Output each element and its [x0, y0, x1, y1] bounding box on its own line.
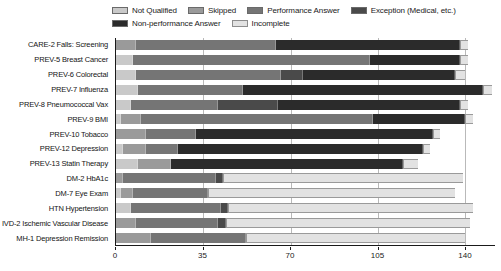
bar-segment-non-performance-answer[interactable] [243, 85, 482, 95]
bar-row [116, 127, 495, 142]
legend-label-non-performance-answer: Non-performance Answer [132, 19, 221, 28]
legend-row-2: Non-performance Answer Incomplete [112, 17, 495, 29]
legend-label-incomplete: Incomplete [252, 19, 290, 28]
bar-segment-incomplete[interactable] [223, 173, 462, 183]
bar-segment-skipped[interactable] [116, 218, 136, 228]
stacked-bar[interactable] [116, 218, 470, 228]
bar-segment-performance-answer[interactable] [136, 40, 276, 50]
bar-segment-exception[interactable] [221, 203, 228, 213]
bar-segment-exception[interactable] [218, 100, 278, 110]
bar-segment-skipped[interactable] [116, 129, 146, 139]
bar-segment-performance-answer[interactable] [138, 85, 243, 95]
legend-item-performance-answer[interactable]: Performance Answer [247, 6, 339, 15]
bar-segment-incomplete[interactable] [460, 40, 467, 50]
bar-segment-performance-answer[interactable] [146, 144, 178, 154]
bar-segment-not-qualified[interactable] [116, 70, 136, 80]
x-tick-label: 35 [198, 251, 207, 260]
bar-segment-incomplete[interactable] [208, 188, 455, 198]
x-tick-label: 70 [286, 251, 295, 260]
x-tick-mark [203, 247, 204, 250]
bar-segment-performance-answer[interactable] [146, 129, 196, 139]
bar-segment-performance-answer[interactable] [131, 203, 221, 213]
stacked-bar[interactable] [116, 40, 468, 50]
bar-segment-incomplete[interactable] [228, 203, 472, 213]
bar-segment-performance-answer[interactable] [133, 188, 208, 198]
x-tick-label: 140 [458, 251, 471, 260]
bar-segment-performance-answer[interactable] [123, 173, 215, 183]
bar-segment-not-qualified[interactable] [116, 144, 123, 154]
legend-swatch-non-performance-answer-icon [112, 20, 128, 27]
bar-segment-non-performance-answer[interactable] [278, 100, 460, 110]
stacked-bar[interactable] [116, 188, 455, 198]
stacked-bar[interactable] [116, 114, 473, 124]
bar-segment-not-qualified[interactable] [116, 85, 138, 95]
bar-segment-incomplete[interactable] [460, 55, 467, 65]
bar-segment-performance-answer[interactable] [136, 218, 218, 228]
chart-legend: Not Qualified Skipped Performance Answer… [0, 4, 501, 30]
bar-segment-performance-answer[interactable] [141, 114, 373, 124]
stacked-bar[interactable] [116, 233, 465, 243]
bar-segment-not-qualified[interactable] [116, 203, 131, 213]
stacked-bar[interactable] [116, 55, 468, 65]
legend-item-skipped[interactable]: Skipped [188, 6, 236, 15]
bar-segment-not-qualified[interactable] [116, 159, 138, 169]
plot-wrapper: CARE-2 Falls: ScreeningPREV-5 Breast Can… [0, 38, 501, 253]
x-tick-label: 0 [113, 251, 117, 260]
stacked-bar[interactable] [116, 159, 418, 169]
stacked-bar[interactable] [116, 203, 473, 213]
legend-item-not-qualified[interactable]: Not Qualified [112, 6, 177, 15]
legend-item-incomplete[interactable]: Incomplete [232, 19, 290, 28]
category-label: PREV-8 Pneumococcal Vax [0, 97, 112, 112]
bar-segment-non-performance-answer[interactable] [171, 159, 403, 169]
bar-segment-skipped[interactable] [121, 114, 141, 124]
bar-segment-skipped[interactable] [116, 173, 123, 183]
bar-segment-incomplete[interactable] [423, 144, 430, 154]
bar-segment-incomplete[interactable] [226, 218, 470, 228]
bar-segment-skipped[interactable] [123, 144, 145, 154]
bar-segment-incomplete[interactable] [460, 100, 467, 110]
bar-segment-not-qualified[interactable] [116, 100, 131, 110]
bar-segment-non-performance-answer[interactable] [276, 40, 461, 50]
legend-item-non-performance-answer[interactable]: Non-performance Answer [112, 19, 221, 28]
stacked-bar[interactable] [116, 173, 463, 183]
bar-segment-incomplete[interactable] [465, 114, 472, 124]
bar-segment-performance-answer[interactable] [133, 55, 370, 65]
plot-area [115, 38, 495, 246]
bar-segment-exception[interactable] [281, 70, 303, 80]
bar-segment-skipped[interactable] [116, 233, 151, 243]
bar-segment-non-performance-answer[interactable] [178, 144, 422, 154]
bar-series-container [116, 38, 495, 245]
stacked-bar[interactable] [116, 70, 465, 80]
bar-row [116, 68, 495, 83]
bar-segment-skipped[interactable] [116, 40, 136, 50]
category-label: MH-1 Depression Remission [0, 231, 112, 246]
x-tick-mark [378, 247, 379, 250]
bar-segment-non-performance-answer[interactable] [303, 70, 455, 80]
bar-segment-not-qualified[interactable] [116, 55, 133, 65]
bar-segment-incomplete[interactable] [403, 159, 418, 169]
stacked-bar[interactable] [116, 129, 440, 139]
bar-segment-performance-answer[interactable] [136, 70, 281, 80]
bar-segment-exception[interactable] [216, 173, 223, 183]
stacked-bar[interactable] [116, 144, 430, 154]
bar-segment-non-performance-answer[interactable] [370, 55, 460, 65]
stacked-bar[interactable] [116, 100, 468, 110]
category-label: PREV-13 Statin Therapy [0, 157, 112, 172]
bar-segment-incomplete[interactable] [455, 70, 465, 80]
bar-segment-performance-answer[interactable] [131, 100, 218, 110]
bar-segment-performance-answer[interactable] [151, 233, 246, 243]
bar-row [116, 38, 495, 53]
stacked-bar[interactable] [116, 85, 493, 95]
bar-segment-incomplete[interactable] [246, 233, 465, 243]
bar-segment-skipped[interactable] [138, 159, 170, 169]
legend-label-exception: Exception (Medical, etc.) [371, 6, 456, 15]
bar-segment-incomplete[interactable] [483, 85, 493, 95]
bar-segment-incomplete[interactable] [433, 129, 440, 139]
bar-segment-non-performance-answer[interactable] [373, 114, 465, 124]
bar-segment-non-performance-answer[interactable] [196, 129, 433, 139]
legend-item-exception[interactable]: Exception (Medical, etc.) [351, 6, 456, 15]
bar-segment-exception[interactable] [218, 218, 225, 228]
bar-row [116, 156, 495, 171]
bar-row [116, 186, 495, 201]
bar-segment-skipped[interactable] [121, 188, 133, 198]
